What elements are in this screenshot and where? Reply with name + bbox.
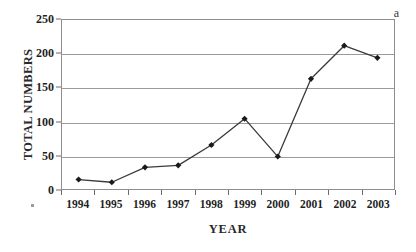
x-axis-tick-mark [328, 190, 329, 195]
x-axis-tick-label: 2002 [333, 198, 356, 210]
x-axis-tick-labels: 1994199519961997199819992000200120022003 [61, 190, 395, 220]
line-series-svg [62, 20, 394, 189]
y-axis-tick-mark [56, 19, 61, 20]
x-axis-tick-label: 1995 [100, 198, 123, 210]
y-axis-tick-labels: 050100150200250 [22, 0, 54, 252]
y-axis-tick-mark [56, 53, 61, 54]
x-axis-tick-label: 1998 [200, 198, 223, 210]
y-axis-tick-label: 0 [22, 183, 54, 198]
x-axis-tick-mark [161, 190, 162, 195]
x-axis-tick-label: 1996 [133, 198, 156, 210]
x-axis-tick-mark [395, 190, 396, 195]
y-axis-tick-label: 150 [22, 80, 54, 95]
data-point-marker [374, 55, 380, 61]
series-line [79, 46, 378, 183]
data-point-marker [142, 164, 148, 170]
y-axis-tick-label: 100 [22, 114, 54, 129]
chart-figure: TOTAL NUMBERS 050100150200250 a 19941995… [0, 0, 416, 252]
data-point-marker [175, 162, 181, 168]
data-point-marker [109, 179, 115, 185]
x-axis-tick-label: 1994 [66, 198, 89, 210]
x-axis-tick-label: 2003 [367, 198, 390, 210]
panel-annotation-label: a [394, 6, 399, 21]
x-axis-label: YEAR [61, 222, 395, 237]
y-axis-tick-mark [56, 121, 61, 122]
plot-area [61, 19, 395, 190]
x-axis-tick-mark [228, 190, 229, 195]
y-axis-tick-label: 250 [22, 12, 54, 27]
x-axis-tick-label: 1997 [166, 198, 189, 210]
x-axis-tick-mark [362, 190, 363, 195]
x-axis-tick-mark [61, 190, 62, 195]
x-axis-tick-label: 2000 [267, 198, 290, 210]
y-axis-tick-label: 200 [22, 46, 54, 61]
x-axis-tick-label: 1999 [233, 198, 256, 210]
x-axis-tick-mark [195, 190, 196, 195]
data-point-marker [76, 176, 82, 182]
y-axis-tick-label: 50 [22, 148, 54, 163]
x-axis-tick-mark [261, 190, 262, 195]
x-axis-tick-mark [94, 190, 95, 195]
y-axis-tick-mark [56, 190, 61, 191]
scan-artifact-mark [31, 204, 34, 207]
x-axis-tick-mark [295, 190, 296, 195]
y-axis-tick-mark [56, 155, 61, 156]
y-axis-tick-mark [56, 87, 61, 88]
x-axis-tick-mark [128, 190, 129, 195]
x-axis-tick-label: 2001 [300, 198, 323, 210]
